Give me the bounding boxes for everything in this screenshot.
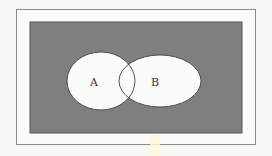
set-b-label: B bbox=[151, 76, 159, 89]
set-a-label: A bbox=[89, 76, 99, 89]
venn-diagram: A B bbox=[0, 0, 272, 156]
